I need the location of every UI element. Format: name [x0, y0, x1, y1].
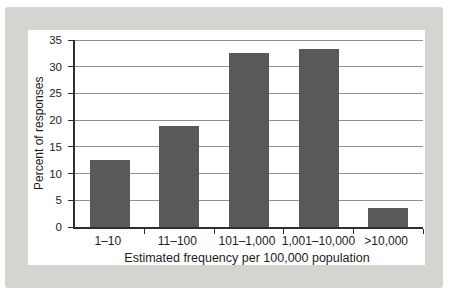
y-axis-tick	[68, 227, 73, 228]
bar	[299, 49, 339, 227]
y-axis-tick	[68, 120, 73, 121]
y-axis-tick	[68, 66, 73, 67]
x-axis-title: Estimated frequency per 100,000 populati…	[73, 251, 421, 265]
y-tick-label: 15	[28, 140, 62, 154]
y-axis-tick	[68, 93, 73, 94]
y-tick-label: 30	[28, 60, 62, 74]
x-tick-label: 11–100	[143, 234, 213, 248]
y-tick-label: 0	[28, 220, 62, 234]
bar	[159, 126, 199, 228]
gridline	[75, 40, 423, 41]
y-axis-tick	[68, 40, 73, 41]
bar	[229, 53, 269, 227]
x-tick-label: 1–10	[73, 234, 143, 248]
y-tick-label: 20	[28, 113, 62, 127]
x-tick-label: >10,000	[351, 234, 421, 248]
y-tick-label: 25	[28, 86, 62, 100]
y-tick-label: 10	[28, 167, 62, 181]
y-axis-tick	[68, 173, 73, 174]
y-axis-tick	[68, 200, 73, 201]
y-axis-tick	[68, 146, 73, 147]
chart-panel: Percent of responses Estimated frequency…	[28, 30, 425, 265]
figure-frame: Percent of responses Estimated frequency…	[5, 7, 443, 288]
x-axis-tick	[423, 229, 424, 234]
y-tick-label: 35	[28, 33, 62, 47]
bar	[368, 208, 408, 227]
plot-area	[73, 40, 423, 229]
x-tick-label: 101–1,000	[212, 234, 282, 248]
x-tick-label: 1,001–10,000	[282, 234, 352, 248]
y-tick-label: 5	[28, 193, 62, 207]
bar	[90, 160, 130, 227]
